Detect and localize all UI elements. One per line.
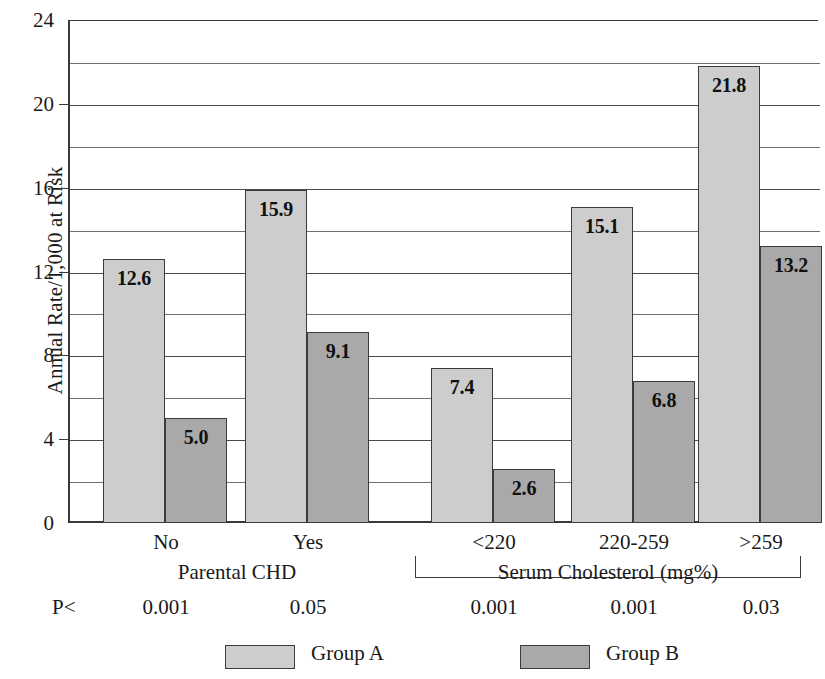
p-value-lt220: 0.001	[434, 595, 554, 620]
category-label-gt259: >259	[701, 530, 821, 555]
bar-value-label: 5.0	[166, 426, 226, 449]
p-value-yes: 0.05	[248, 595, 368, 620]
bar-value-label: 2.6	[494, 477, 554, 500]
bar-value-label: 6.8	[634, 389, 694, 412]
p-value-prefix: P<	[52, 595, 76, 620]
y-tick-label-12: 12	[6, 261, 54, 282]
p-value-220-259: 0.001	[574, 595, 694, 620]
bar-value-label: 21.8	[699, 74, 759, 97]
y-tick-mark-16	[59, 188, 68, 189]
p-value-no: 0.001	[106, 595, 226, 620]
category-label-220-259: 220-259	[574, 530, 694, 555]
y-tick-label-24: 24	[6, 10, 54, 31]
y-tick-label-0: 0	[6, 513, 54, 534]
p-value-gt259: 0.03	[701, 595, 821, 620]
bar-group-b-220-259: 6.8	[633, 381, 695, 524]
bar-group-a-gt259: 21.8	[698, 66, 760, 523]
legend-swatch-group-b	[520, 645, 590, 669]
bar-value-label: 12.6	[104, 267, 164, 290]
bar-group-a-lt220: 7.4	[431, 368, 493, 523]
plot-area: 12.6 5.0 15.9 9.1 7.4 2.6 15.1 6.8 21.8	[68, 20, 818, 523]
bar-group-b-yes: 9.1	[307, 332, 369, 523]
y-tick-mark-8	[59, 355, 68, 356]
y-tick-label-4: 4	[6, 429, 54, 450]
category-label-lt220: <220	[434, 530, 554, 555]
bar-group-b-no: 5.0	[165, 418, 227, 523]
gridline-22	[70, 63, 820, 64]
y-tick-label-16: 16	[6, 177, 54, 198]
y-tick-mark-20	[59, 104, 68, 105]
bar-group-a-220-259: 15.1	[571, 207, 633, 524]
bar-group-b-lt220: 2.6	[493, 469, 555, 524]
bar-value-label: 9.1	[308, 340, 368, 363]
y-tick-mark-12	[59, 272, 68, 273]
y-tick-label-20: 20	[6, 93, 54, 114]
bar-group-a-no: 12.6	[103, 259, 165, 523]
y-tick-mark-4	[59, 439, 68, 440]
bar-value-label: 15.9	[246, 198, 306, 221]
category-label-no: No	[106, 530, 226, 555]
bar-value-label: 13.2	[761, 254, 821, 277]
bar-chart-figure: Annual Rate/1,000 at Risk 24 20 16 12 8 …	[0, 0, 825, 679]
legend-label-group-a: Group A	[311, 641, 384, 666]
category-label-yes: Yes	[248, 530, 368, 555]
bar-value-label: 7.4	[432, 376, 492, 399]
group-label-serum-cholesterol: Serum Cholesterol (mg%)	[468, 560, 748, 585]
y-tick-label-8: 8	[6, 345, 54, 366]
bar-group-a-yes: 15.9	[245, 190, 307, 523]
bar-value-label: 15.1	[572, 215, 632, 238]
group-label-parental-chd: Parental CHD	[127, 560, 347, 585]
bar-group-b-gt259: 13.2	[760, 246, 822, 523]
legend-label-group-b: Group B	[606, 641, 679, 666]
legend-swatch-group-a	[225, 645, 295, 669]
